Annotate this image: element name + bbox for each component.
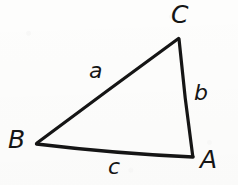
vertex-label-c: C: [171, 2, 188, 27]
side-label-b: b: [194, 82, 208, 104]
vertex-label-a: A: [200, 147, 217, 172]
side-label-a: a: [89, 60, 102, 82]
side-a-stroke: [37, 39, 179, 144]
vertex-label-b: B: [8, 127, 25, 152]
side-b-stroke: [179, 39, 193, 157]
side-label-c: c: [108, 156, 120, 178]
triangle-figure: C B A a b c: [0, 0, 238, 185]
